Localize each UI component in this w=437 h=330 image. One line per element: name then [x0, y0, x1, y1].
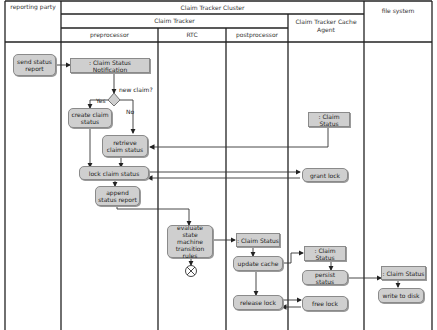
action-update-cache[interactable]: update cache	[233, 256, 283, 271]
action-create-claim-status[interactable]: create claim status	[68, 108, 112, 128]
action-retrieve-claim-status[interactable]: retrieve claim status	[102, 135, 148, 157]
action-free-lock[interactable]: free lock	[302, 296, 348, 311]
decision-diamond	[108, 93, 120, 106]
no-guard-label: No	[126, 108, 134, 115]
action-lock-claim-status[interactable]: lock claim status	[79, 166, 149, 180]
object-claim-status-agent-top[interactable]: : Claim Status	[308, 112, 350, 127]
swimlane-grid	[0, 0, 437, 330]
action-evaluate-state-machine[interactable]: evaluate state machine transition rules	[167, 225, 213, 258]
lane-preprocessor: preprocessor	[61, 31, 158, 39]
lane-claim-tracker: Claim Tracker	[61, 17, 288, 25]
lane-postprocessor: postprocessor	[226, 31, 288, 39]
activity-diagram: reporting party Claim Tracker Cluster Cl…	[0, 0, 437, 330]
object-claim-status-agent[interactable]: : Claim Status	[304, 246, 346, 261]
action-send-status-report[interactable]: send status report	[13, 54, 56, 76]
lane-reporting-party: reporting party	[5, 3, 61, 11]
action-write-to-disk[interactable]: write to disk	[378, 288, 424, 303]
yes-guard-label: Yes	[96, 97, 106, 104]
object-claim-status-fs[interactable]: : Claim Status	[381, 266, 426, 280]
object-claim-status-post[interactable]: : Claim Status	[236, 233, 280, 247]
action-grant-lock[interactable]: grant lock	[302, 168, 348, 182]
lane-file-system: file system	[364, 7, 432, 15]
action-append-status-report[interactable]: append status report	[95, 186, 140, 206]
lane-rtc: RTC	[158, 31, 226, 39]
lane-cluster: Claim Tracker Cluster	[61, 4, 364, 12]
action-release-lock[interactable]: release lock	[233, 295, 283, 310]
flow-final-icon	[186, 266, 197, 277]
object-claim-status-notification[interactable]: : Claim Status Notification	[70, 58, 150, 73]
decision-label: new claim?	[119, 86, 153, 93]
lane-cache-agent: Claim Tracker Cache Agent	[288, 18, 364, 34]
action-persist-status[interactable]: persist status	[302, 270, 348, 285]
